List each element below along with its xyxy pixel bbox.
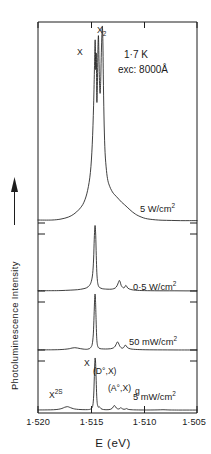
plot-background bbox=[0, 0, 211, 454]
x-tick-label-3: 1·505 bbox=[182, 417, 206, 427]
excitation-label: exc: 8000Å bbox=[118, 63, 168, 75]
power-label-trace-1: 0·5 W/cm2 bbox=[133, 280, 177, 292]
power-label-trace-2: 50 mW/cm2 bbox=[129, 335, 177, 347]
peak-label-g: g bbox=[135, 386, 140, 396]
peak-label-x-bottom: X bbox=[84, 358, 90, 368]
peak-label-a0x: (A°,X) bbox=[108, 383, 131, 393]
spectra-plot: 1·7 K exc: 8000Å 5 W/cm2 0·5 W/cm2 50 mW… bbox=[0, 0, 211, 454]
temperature-label: 1·7 K bbox=[124, 49, 148, 60]
x-tick-label-2: 1·510 bbox=[133, 417, 157, 427]
y-axis-label: Photoluminescence Intensity bbox=[9, 261, 20, 390]
peak-label-x-top: X bbox=[77, 47, 83, 57]
x-tick-label-1: 1·515 bbox=[80, 417, 104, 427]
x-axis-label: E (eV) bbox=[95, 437, 131, 449]
x-tick-label-0: 1·520 bbox=[26, 417, 50, 427]
peak-label-d0x: (D°,X) bbox=[93, 366, 117, 376]
photoluminescence-figure: 1·7 K exc: 8000Å 5 W/cm2 0·5 W/cm2 50 mW… bbox=[0, 0, 211, 454]
power-label-trace-0: 5 W/cm2 bbox=[140, 202, 176, 214]
